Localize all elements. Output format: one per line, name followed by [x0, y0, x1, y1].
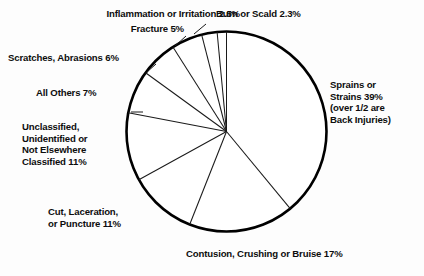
- slice-label-cut-laceration-puncture: Cut, Laceration, or Puncture 11%: [48, 206, 164, 229]
- slice-label-contusion-crushing-bruise: Contusion, Crushing or Bruise 17%: [186, 248, 396, 260]
- slice-label-all-others: All Others 7%: [36, 87, 148, 99]
- slice-label-inflammation: Inflammation or Irritation 2.5%: [50, 8, 240, 20]
- pie-chart-figure: Inflammation or Irritation 2.5% Burn or …: [0, 0, 424, 276]
- slice-label-fracture: Fracture 5%: [60, 23, 184, 35]
- slice-label-scratches-abrasions: Scratches, Abrasions 6%: [8, 52, 150, 64]
- leader-inflammation: [194, 24, 206, 34]
- slice-label-sprains-or-strains: Sprains or Strains 39% (over 1/2 are Bac…: [330, 79, 422, 125]
- slice-label-unclassified: Unclassified, Unidentified or Not Elsewh…: [22, 121, 134, 167]
- slice-label-burn-or-scald: Burn or Scald 2.3%: [216, 8, 366, 20]
